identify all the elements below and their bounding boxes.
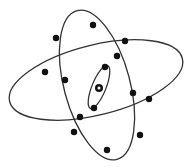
electron bbox=[91, 105, 97, 111]
outer-orbit-flat bbox=[1, 25, 191, 136]
electron bbox=[130, 90, 136, 96]
electron bbox=[137, 132, 143, 138]
nucleus-center bbox=[98, 87, 101, 90]
electron bbox=[104, 147, 110, 153]
electron bbox=[146, 96, 152, 102]
electron bbox=[71, 129, 77, 135]
atom-diagram bbox=[0, 0, 194, 167]
electron bbox=[90, 22, 96, 28]
electron bbox=[53, 35, 59, 41]
electron bbox=[42, 69, 48, 75]
nucleus bbox=[95, 84, 103, 92]
electron bbox=[114, 53, 120, 59]
electron bbox=[122, 38, 128, 44]
electron bbox=[62, 77, 68, 83]
electron bbox=[102, 64, 108, 70]
orbits bbox=[1, 2, 191, 167]
electron bbox=[77, 114, 83, 120]
